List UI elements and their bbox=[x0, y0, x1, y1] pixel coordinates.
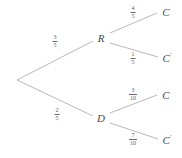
fraction-denominator: 5 bbox=[55, 115, 60, 122]
leaf-label-cprime-2: C′ bbox=[163, 134, 172, 146]
fraction-denominator: 5 bbox=[53, 42, 58, 49]
fraction-numerator: 2 bbox=[55, 107, 60, 115]
fraction-denominator: 10 bbox=[129, 140, 137, 147]
node-label-d: D bbox=[97, 113, 105, 124]
leaf-text-c-1: C bbox=[162, 6, 169, 18]
branch-probability-d-to-cprime: 7 10 bbox=[129, 132, 137, 146]
branch-probability-root-to-d: 2 5 bbox=[55, 107, 60, 121]
fraction-denominator: 10 bbox=[129, 95, 137, 102]
fraction-numerator: 7 bbox=[129, 132, 137, 140]
fraction-numerator: 4 bbox=[131, 5, 136, 13]
node-label-r: R bbox=[98, 33, 105, 44]
fraction-numerator: 3 bbox=[53, 34, 58, 42]
leaf-prime-cprime-2: ′ bbox=[170, 133, 172, 141]
branch-probability-r-to-cprime: 1 5 bbox=[131, 51, 136, 65]
branch-probability-root-to-r: 3 5 bbox=[53, 34, 58, 48]
fraction-denominator: 5 bbox=[131, 13, 136, 20]
tree-branch-lines bbox=[0, 0, 182, 158]
fraction-numerator: 1 bbox=[131, 51, 136, 59]
leaf-label-cprime-1: C′ bbox=[163, 52, 172, 64]
branch-probability-r-to-c: 4 5 bbox=[131, 5, 136, 19]
leaf-label-c-1: C bbox=[162, 6, 169, 18]
branch-probability-d-to-c: 3 10 bbox=[129, 87, 137, 101]
fraction-denominator: 5 bbox=[131, 59, 136, 66]
leaf-label-c-2: C bbox=[162, 89, 169, 101]
probability-tree-diagram: R D C C′ C C′ 3 5 2 5 4 5 1 5 3 10 7 10 bbox=[0, 0, 182, 158]
fraction-numerator: 3 bbox=[129, 87, 137, 95]
leaf-text-c-2: C bbox=[162, 89, 169, 101]
leaf-prime-cprime-1: ′ bbox=[170, 51, 172, 59]
